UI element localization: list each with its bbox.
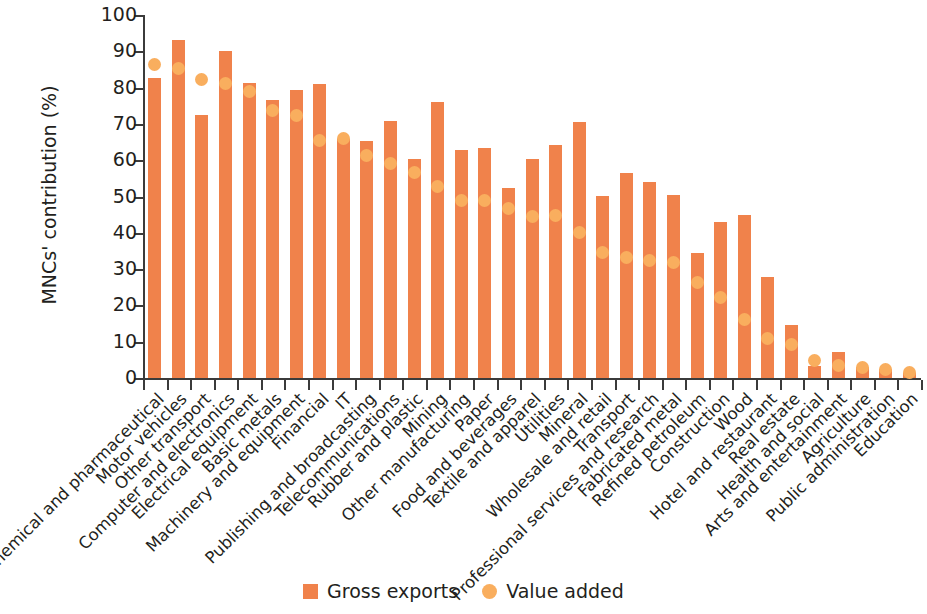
bar <box>219 51 232 378</box>
y-axis-tick-label: 30 <box>113 258 137 278</box>
y-axis-tick-label: 0 <box>125 367 137 387</box>
legend-item-label: Gross exports <box>327 580 458 602</box>
data-point <box>502 202 515 215</box>
x-axis-tick-mark <box>638 380 640 390</box>
bar <box>360 141 373 378</box>
x-axis-tick-mark <box>850 380 852 390</box>
x-axis-tick-mark <box>426 380 428 390</box>
data-point <box>243 85 256 98</box>
x-axis-tick-mark <box>827 380 829 390</box>
data-point <box>714 291 727 304</box>
x-axis-tick-mark <box>780 380 782 390</box>
x-axis-tick-mark <box>803 380 805 390</box>
bar <box>431 102 444 378</box>
bar <box>337 139 350 378</box>
y-axis-tick-label: 80 <box>113 77 137 97</box>
data-point <box>549 209 562 222</box>
y-axis-title-text: MNCs' contribution (%) <box>38 85 60 304</box>
bar <box>667 195 680 378</box>
bar <box>455 150 468 378</box>
x-axis-tick-mark <box>591 380 593 390</box>
x-axis-tick-mark <box>214 380 216 390</box>
y-axis-line <box>143 15 145 378</box>
y-axis-tick-label: 50 <box>113 186 137 206</box>
bar <box>643 182 656 378</box>
data-point <box>172 62 185 75</box>
bar <box>478 148 491 379</box>
data-point <box>691 276 704 289</box>
data-point <box>148 58 161 71</box>
bar <box>761 277 774 378</box>
x-axis-tick-mark <box>261 380 263 390</box>
data-point <box>266 104 279 117</box>
x-axis-tick-mark <box>544 380 546 390</box>
x-axis-tick-mark <box>756 380 758 390</box>
x-axis-tick-mark <box>685 380 687 390</box>
y-axis-tick-label: 20 <box>113 294 137 314</box>
bar <box>596 196 609 378</box>
x-axis-tick-mark <box>732 380 734 390</box>
x-axis-tick-mark <box>567 380 569 390</box>
chart-figure: MNCs' contribution (%) 01020304050607080… <box>0 0 927 614</box>
data-point <box>667 256 680 269</box>
bar <box>243 83 256 378</box>
bar <box>573 122 586 378</box>
y-axis-title: MNCs' contribution (%) <box>34 10 64 380</box>
x-axis-tick-mark <box>284 380 286 390</box>
data-point <box>596 246 609 259</box>
x-axis-tick-mark <box>473 380 475 390</box>
bar <box>195 115 208 378</box>
x-axis-tick-mark <box>449 380 451 390</box>
legend-item-label: Value added <box>506 580 624 602</box>
bar <box>148 78 161 378</box>
x-axis-tick-mark <box>497 380 499 390</box>
bar <box>313 84 326 378</box>
x-axis-tick-mark <box>379 380 381 390</box>
x-axis-tick-mark <box>709 380 711 390</box>
data-point <box>431 180 444 193</box>
data-point <box>195 73 208 86</box>
x-axis-tick-mark <box>615 380 617 390</box>
y-axis-tick-label: 10 <box>113 331 137 351</box>
square-swatch-icon <box>303 584 318 599</box>
legend-item[interactable]: Gross exports <box>303 580 458 602</box>
bar <box>549 145 562 378</box>
bar <box>620 173 633 378</box>
data-point <box>408 166 421 179</box>
x-axis-tick-mark <box>921 380 923 390</box>
x-axis-tick-mark <box>237 380 239 390</box>
data-point <box>785 338 798 351</box>
data-point <box>313 134 326 147</box>
x-axis-tick-mark <box>190 380 192 390</box>
data-point <box>573 226 586 239</box>
y-axis-tick-label: 70 <box>113 113 137 133</box>
bar <box>266 100 279 378</box>
x-axis-tick-mark <box>897 380 899 390</box>
data-point <box>856 361 869 374</box>
data-point <box>219 77 232 90</box>
x-axis-tick-mark <box>874 380 876 390</box>
bar <box>502 188 515 378</box>
bar <box>808 366 821 378</box>
x-axis-tick-mark <box>167 380 169 390</box>
x-axis-tick-mark <box>355 380 357 390</box>
y-axis-tick-label: 60 <box>113 149 137 169</box>
chart-legend: Gross exportsValue added <box>0 580 927 602</box>
circle-swatch-icon <box>482 584 497 599</box>
y-axis-tick-label: 90 <box>113 40 137 60</box>
bar <box>785 325 798 378</box>
bar <box>526 159 539 378</box>
legend-item[interactable]: Value added <box>482 580 624 602</box>
bar <box>408 159 421 378</box>
bar <box>691 253 704 378</box>
data-point <box>526 210 539 223</box>
data-point <box>620 251 633 264</box>
bar <box>172 40 185 378</box>
x-axis-tick-mark <box>662 380 664 390</box>
data-point <box>455 194 468 207</box>
data-point <box>337 132 350 145</box>
x-axis-tick-mark <box>308 380 310 390</box>
x-axis-tick-mark <box>143 380 145 390</box>
bar <box>738 215 751 378</box>
bar <box>290 90 303 378</box>
